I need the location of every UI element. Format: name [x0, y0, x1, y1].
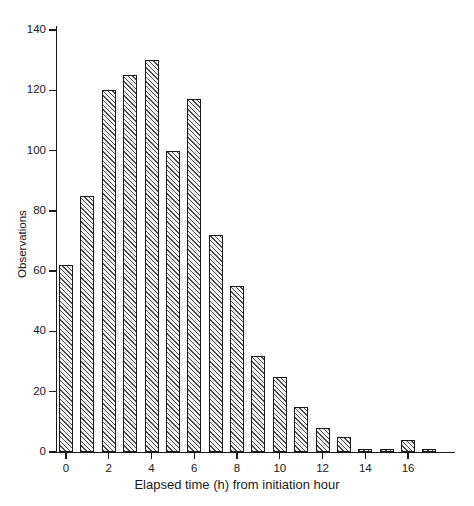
y-tick-label-80: 80 — [33, 205, 46, 217]
y-tick-140 — [49, 29, 56, 30]
figure-histogram: 020406080100120140 0246810121416 Observa… — [0, 0, 474, 506]
bar — [145, 60, 159, 452]
y-tick-label-100: 100 — [27, 145, 46, 157]
y-tick-label-20: 20 — [33, 386, 46, 398]
y-tick-60 — [49, 270, 56, 271]
x-tick-label-12: 12 — [303, 462, 343, 474]
x-tick-4 — [151, 453, 152, 459]
x-tick-14 — [365, 453, 366, 459]
plot-area: 020406080100120140 0246810121416 Observa… — [0, 0, 474, 506]
bar — [123, 75, 137, 452]
bar — [251, 356, 265, 452]
y-axis-title: Observations — [16, 184, 28, 304]
x-tick-label-6: 6 — [174, 462, 214, 474]
x-tick-label-14: 14 — [345, 462, 385, 474]
bar — [337, 437, 351, 452]
bar — [166, 151, 180, 452]
y-tick-0 — [49, 451, 56, 452]
bar — [358, 449, 372, 452]
x-tick-label-16: 16 — [388, 462, 428, 474]
y-tick-20 — [49, 391, 56, 392]
x-tick-12 — [322, 453, 323, 459]
y-axis-line — [56, 26, 57, 453]
bar — [209, 235, 223, 452]
bar — [59, 265, 73, 452]
x-tick-label-4: 4 — [132, 462, 172, 474]
bar — [401, 440, 415, 452]
bar — [80, 196, 94, 452]
y-tick-label-0: 0 — [40, 446, 46, 458]
x-tick-label-10: 10 — [260, 462, 300, 474]
x-tick-10 — [279, 453, 280, 459]
y-tick-label-40: 40 — [33, 325, 46, 337]
x-axis-line — [56, 452, 455, 453]
bar — [230, 286, 244, 452]
x-tick-6 — [194, 453, 195, 459]
bar — [422, 449, 436, 452]
y-tick-label-120: 120 — [27, 84, 46, 96]
y-tick-100 — [49, 150, 56, 151]
y-tick-120 — [49, 90, 56, 91]
y-tick-label-60: 60 — [33, 265, 46, 277]
x-tick-label-8: 8 — [217, 462, 257, 474]
x-tick-16 — [407, 453, 408, 459]
x-axis-title: Elapsed time (h) from initiation hour — [0, 478, 474, 492]
x-tick-2 — [108, 453, 109, 459]
x-tick-label-0: 0 — [46, 462, 86, 474]
y-tick-label-140: 140 — [27, 24, 46, 36]
x-tick-8 — [236, 453, 237, 459]
y-tick-40 — [49, 331, 56, 332]
bar — [102, 90, 116, 452]
bar — [273, 377, 287, 452]
y-tick-80 — [49, 210, 56, 211]
x-tick-label-2: 2 — [89, 462, 129, 474]
bar — [316, 428, 330, 452]
bar — [187, 99, 201, 452]
bar — [380, 449, 394, 452]
bar — [294, 407, 308, 452]
x-tick-0 — [65, 453, 66, 459]
